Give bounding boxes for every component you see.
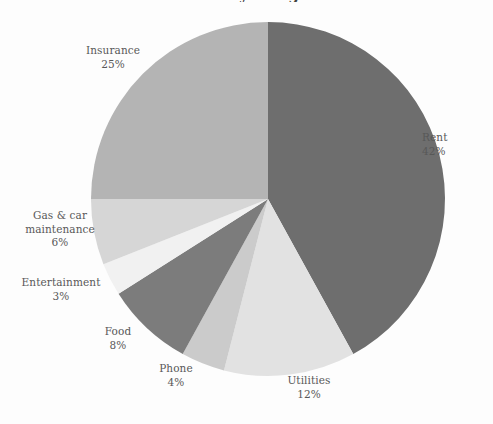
pie-label-phone: Phone 4% bbox=[126, 362, 226, 389]
pie-label-utilities-value: 12% bbox=[233, 388, 385, 402]
pie-label-gas-car-maintenance: Gas & car maintenance 6% bbox=[0, 209, 120, 250]
pie-label-utilities: Utilities 12% bbox=[233, 374, 385, 401]
pie-label-rent-value: 42% bbox=[422, 145, 484, 159]
pie-label-gas-car-maintenance-value: 6% bbox=[0, 236, 120, 250]
pie-label-rent-name: Rent bbox=[422, 131, 484, 145]
pie-label-phone-value: 4% bbox=[126, 376, 226, 390]
pie-label-insurance-value: 25% bbox=[60, 58, 166, 72]
pie-label-phone-name: Phone bbox=[126, 362, 226, 376]
pie-slices-group bbox=[91, 22, 445, 376]
pie-label-gas-car-maintenance-name: Gas & car maintenance bbox=[0, 209, 120, 236]
pie-label-entertainment-name: Entertainment bbox=[2, 276, 120, 290]
pie-label-utilities-name: Utilities bbox=[233, 374, 385, 388]
pie-label-entertainment-value: 3% bbox=[2, 290, 120, 304]
pie-label-food-value: 8% bbox=[72, 339, 164, 353]
pie-label-entertainment: Entertainment 3% bbox=[2, 276, 120, 303]
pie-label-food: Food 8% bbox=[72, 325, 164, 352]
pie-chart-figure: Monthly Budget Insurance 25% Rent 42% Ut… bbox=[0, 0, 493, 424]
pie-label-insurance-name: Insurance bbox=[60, 44, 166, 58]
pie-label-rent: Rent 42% bbox=[422, 131, 484, 158]
pie-label-food-name: Food bbox=[72, 325, 164, 339]
pie-label-insurance: Insurance 25% bbox=[60, 44, 166, 71]
